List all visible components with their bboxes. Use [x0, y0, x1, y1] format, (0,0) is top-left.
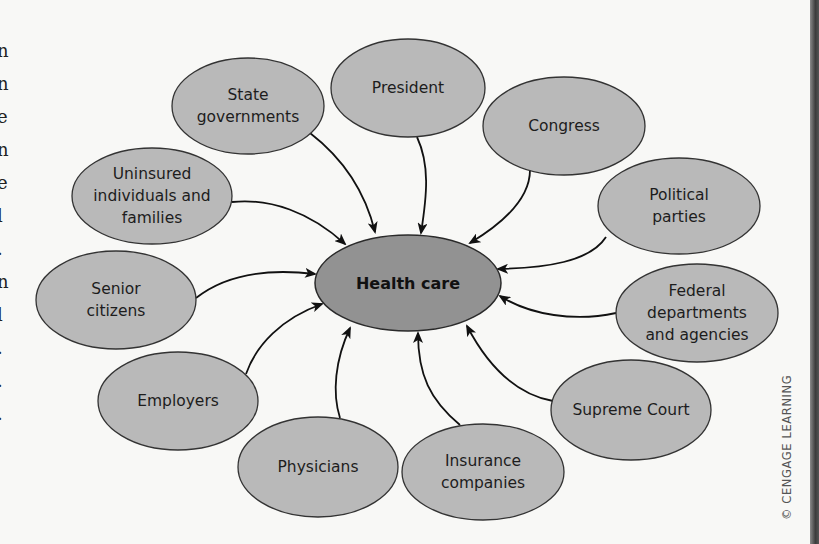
node-label: Supreme Court	[572, 401, 689, 419]
node-label: departments	[647, 304, 747, 322]
node-label: governments	[197, 108, 300, 126]
arrow-employers-to-health-care	[246, 304, 322, 374]
node-state-governments: Stategovernments	[172, 58, 324, 154]
node-supreme-court: Supreme Court	[551, 360, 711, 460]
center-node-health-care: Health care	[315, 235, 501, 331]
node-label: President	[372, 79, 444, 97]
node-label: Employers	[137, 392, 219, 410]
node-employers: Employers	[98, 352, 258, 450]
node-political-parties: Politicalparties	[598, 158, 760, 254]
arrow-physicians-to-health-care	[336, 328, 350, 418]
node-label: Congress	[528, 117, 600, 135]
arrow-congress-to-health-care	[470, 170, 530, 243]
node-ellipse	[598, 158, 760, 254]
node-label: parties	[652, 208, 706, 226]
node-label: Insurance	[445, 452, 521, 470]
node-label: companies	[441, 474, 525, 492]
node-label: Uninsured	[113, 165, 192, 183]
node-federal-departments: Federaldepartmentsand agencies	[616, 264, 778, 362]
center-label: Health care	[356, 274, 460, 293]
node-label: Physicians	[278, 458, 359, 476]
node-label: citizens	[87, 302, 146, 320]
copyright-credit: © CENGAGE LEARNING	[780, 375, 794, 520]
node-label: Political	[649, 186, 709, 204]
arrow-federal-departments-to-health-care	[500, 296, 616, 317]
node-insurance-companies: Insurancecompanies	[402, 424, 564, 520]
arrow-senior-citizens-to-health-care	[196, 272, 315, 298]
book-binding-edge	[810, 0, 819, 544]
node-congress: Congress	[483, 77, 645, 175]
arrow-supreme-court-to-health-care	[467, 326, 553, 401]
health-care-influence-diagram: StategovernmentsPresidentCongressPolitic…	[0, 0, 819, 544]
arrow-president-to-health-care	[417, 137, 426, 233]
node-label: Federal	[668, 282, 725, 300]
node-label: families	[122, 209, 183, 227]
node-uninsured: Uninsuredindividuals andfamilies	[72, 148, 232, 244]
arrow-uninsured-to-health-care	[232, 201, 345, 244]
node-ellipse	[36, 251, 196, 349]
node-label: Senior	[91, 280, 141, 298]
node-label: and agencies	[645, 326, 748, 344]
arrow-state-governments-to-health-care	[310, 133, 375, 232]
arrow-insurance-companies-to-health-care	[418, 333, 460, 425]
node-senior-citizens: Seniorcitizens	[36, 251, 196, 349]
node-ellipse	[172, 58, 324, 154]
arrow-political-parties-to-health-care	[498, 237, 606, 269]
node-physicians: Physicians	[238, 417, 398, 517]
node-label: individuals and	[93, 187, 210, 205]
node-ellipse	[402, 424, 564, 520]
node-label: State	[227, 86, 268, 104]
node-president: President	[331, 39, 485, 137]
